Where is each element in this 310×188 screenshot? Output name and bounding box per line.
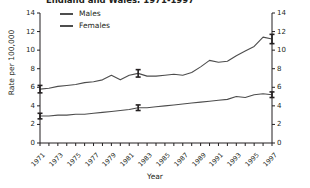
y-tick-label: 2 [21, 120, 35, 128]
legend-item-males: Males [60, 8, 110, 20]
legend-label: Females [79, 22, 110, 30]
y-tick-label-right: 14 [277, 9, 291, 17]
y-tick-label-right: 12 [277, 28, 291, 36]
y-tick-label-right: 8 [277, 65, 291, 73]
y-tick-label: 14 [21, 9, 35, 17]
legend-line-icon [60, 13, 73, 15]
legend-line-icon [60, 25, 73, 27]
legend-item-females: Females [60, 20, 110, 32]
y-tick-label-right: 4 [277, 102, 291, 110]
y-tick-label-right: 10 [277, 46, 291, 54]
legend: Males Females [60, 8, 110, 32]
y-tick-label-right: 6 [277, 83, 291, 91]
y-tick-label: 4 [21, 102, 35, 110]
series-line-females [40, 94, 272, 116]
y-tick-label-right: 2 [277, 120, 291, 128]
y-tick-label: 8 [21, 65, 35, 73]
y-tick-label: 6 [21, 83, 35, 91]
legend-label: Males [79, 10, 101, 18]
series-line-males [40, 37, 272, 89]
y-tick-label-right: 0 [277, 139, 291, 147]
y-tick-label: 12 [21, 28, 35, 36]
y-tick-label: 10 [21, 46, 35, 54]
y-tick-label: 0 [21, 139, 35, 147]
chart-container: England and Wales, 1971-1997 Rate per 10… [0, 0, 310, 188]
